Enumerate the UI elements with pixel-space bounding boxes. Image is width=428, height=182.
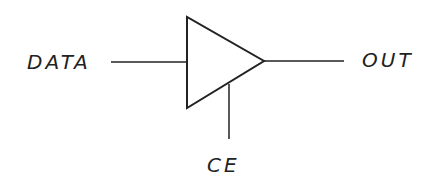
data-input-label: DATA [27,52,91,72]
output-label: OUT [362,50,414,70]
ce-label: CE [207,155,240,175]
buffer-triangle [187,17,264,108]
